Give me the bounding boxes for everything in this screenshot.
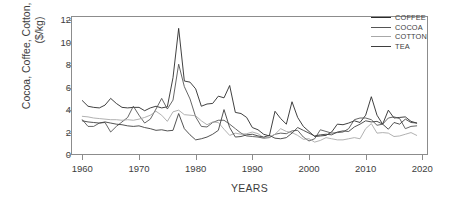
x-tick-label: 1980 (176, 163, 216, 174)
x-tick-mark (82, 155, 83, 160)
x-axis-label: YEARS (71, 182, 428, 194)
legend-label: COCOA (395, 23, 423, 32)
legend-item-cotton: COTTON (371, 32, 447, 42)
x-tick-label: 2010 (346, 163, 386, 174)
x-tick-mark (139, 155, 140, 160)
chart-legend: COFFEECOCOACOTTONTEA (371, 13, 447, 51)
legend-label: COFFEE (395, 13, 426, 22)
x-tick-label: 1960 (62, 163, 102, 174)
chart-figure: Cocoa, Coffee, Cotton, Tea Prices ($/kg)… (0, 0, 452, 222)
x-tick-mark (366, 155, 367, 160)
legend-label: COTTON (395, 32, 427, 41)
x-tick-mark (252, 155, 253, 160)
x-tick-label: 1970 (119, 163, 159, 174)
legend-swatch-icon (371, 17, 391, 18)
legend-swatch-icon (371, 27, 391, 28)
legend-item-coffee: COFFEE (371, 13, 447, 23)
legend-item-tea: TEA (371, 42, 447, 52)
legend-swatch-icon (371, 36, 391, 37)
legend-label: TEA (395, 42, 410, 51)
x-tick-label: 2000 (289, 163, 329, 174)
legend-swatch-icon (371, 46, 391, 47)
x-tick-mark (422, 155, 423, 160)
x-tick-mark (309, 155, 310, 160)
legend-item-cocoa: COCOA (371, 23, 447, 33)
x-tick-mark (196, 155, 197, 160)
x-tick-label: 1990 (232, 163, 272, 174)
x-tick-label: 2020 (402, 163, 442, 174)
